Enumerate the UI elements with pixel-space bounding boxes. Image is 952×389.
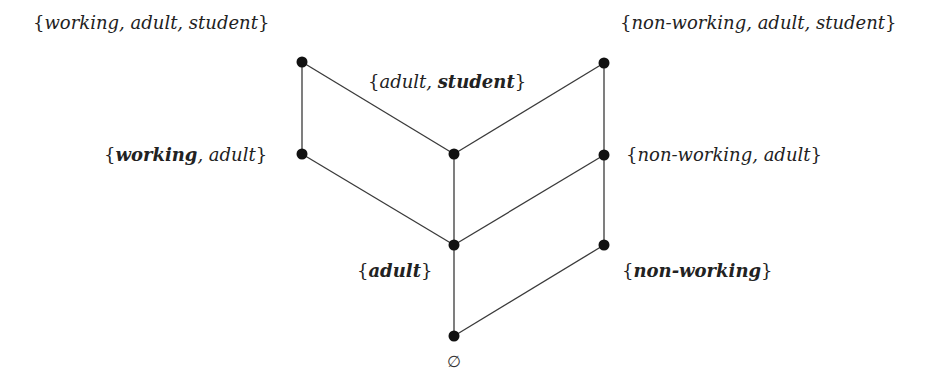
- node-empty: [449, 331, 460, 342]
- open-brace: {: [357, 260, 368, 281]
- node-wA: [297, 149, 308, 160]
- node-nA: [599, 150, 610, 161]
- label-part: student: [438, 71, 515, 92]
- open-brace: {: [104, 144, 115, 165]
- label-working-adult-student: {working, adult, student}: [33, 14, 269, 32]
- node-n: [599, 240, 610, 251]
- label-working-adult: {working, adult}: [104, 146, 267, 164]
- label-part: working: [115, 144, 197, 165]
- label-part: adult: [368, 260, 421, 281]
- edge-nA-A: [454, 155, 604, 245]
- close-brace: }: [885, 12, 896, 33]
- lattice-diagram: [0, 0, 952, 389]
- label-part: adult,: [379, 71, 437, 92]
- edges: [302, 62, 604, 336]
- label-adult: {adult}: [357, 262, 432, 280]
- open-brace: {: [368, 71, 379, 92]
- label-part: working: [44, 12, 119, 33]
- edge-n-empty: [454, 245, 604, 336]
- close-brace: }: [515, 71, 526, 92]
- open-brace: {: [622, 260, 633, 281]
- nodes: [297, 57, 610, 342]
- open-brace: {: [620, 12, 631, 33]
- label-part: , adult: [197, 144, 255, 165]
- edge-wA-A: [302, 154, 454, 245]
- close-brace: }: [256, 144, 267, 165]
- label-adult-student: {adult, student}: [368, 73, 526, 91]
- label-non-working: {non-working}: [622, 262, 773, 280]
- close-brace: }: [810, 144, 821, 165]
- label-non-working-adult-student: {non-working, adult, student}: [620, 14, 896, 32]
- label-part: non-working, adult: [637, 144, 810, 165]
- label-part: non-working, adult, student: [631, 12, 885, 33]
- close-brace: }: [258, 12, 269, 33]
- node-nAS: [599, 58, 610, 69]
- label-non-working-adult: {non-working, adult}: [626, 146, 822, 164]
- open-brace: {: [33, 12, 44, 33]
- label-part: non-working: [633, 260, 761, 281]
- close-brace: }: [761, 260, 772, 281]
- open-brace: {: [626, 144, 637, 165]
- node-A: [449, 240, 460, 251]
- label-empty-set: ∅: [447, 352, 461, 371]
- node-AS: [449, 149, 460, 160]
- node-wAS: [297, 57, 308, 68]
- label-part: , adult, student: [119, 12, 258, 33]
- close-brace: }: [421, 260, 432, 281]
